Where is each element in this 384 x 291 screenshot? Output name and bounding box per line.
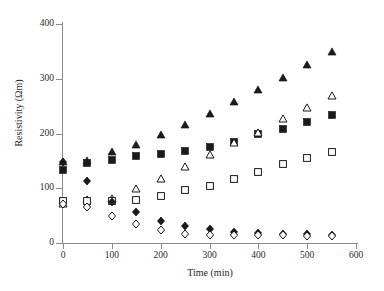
y-tick-label: 100 — [0, 183, 54, 193]
y-tick-mark — [56, 243, 62, 244]
x-tick-mark — [258, 244, 259, 249]
x-tick-mark — [63, 244, 64, 249]
x-tick-label: 200 — [146, 251, 176, 261]
x-tick-mark — [356, 244, 357, 249]
y-axis-title: Resistivity (Ωm) — [14, 48, 24, 178]
y-tick-mark — [56, 24, 62, 25]
y-tick-label: 200 — [0, 129, 54, 139]
x-tick-label: 100 — [97, 251, 127, 261]
scatter-chart: 0100200300400 0100200300400500600 Resist… — [0, 0, 384, 291]
x-axis-title: Time (min) — [62, 268, 358, 278]
y-tick-label: 300 — [0, 74, 54, 84]
y-tick-label: 0 — [0, 238, 54, 248]
y-tick-mark — [56, 79, 62, 80]
x-tick-mark — [161, 244, 162, 249]
plot-area — [63, 24, 356, 243]
x-tick-mark — [210, 244, 211, 249]
x-tick-label: 600 — [341, 251, 371, 261]
y-tick-label: 400 — [0, 19, 54, 29]
y-tick-mark — [56, 188, 62, 189]
x-tick-mark — [112, 244, 113, 249]
x-tick-label: 400 — [243, 251, 273, 261]
x-tick-mark — [307, 244, 308, 249]
y-tick-mark — [56, 134, 62, 135]
x-tick-label: 300 — [195, 251, 225, 261]
x-tick-label: 500 — [292, 251, 322, 261]
x-tick-label: 0 — [48, 251, 78, 261]
